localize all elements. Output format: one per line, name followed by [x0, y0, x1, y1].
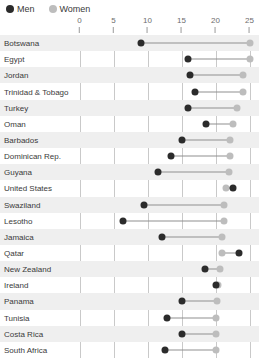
row-connector-line [188, 59, 249, 60]
chart-row[interactable]: Egypt [0, 51, 259, 67]
data-point-women[interactable] [213, 314, 220, 321]
row-connector-line [188, 107, 237, 108]
x-axis-tick: 25 [245, 17, 254, 33]
x-axis-tick-mark [113, 27, 114, 33]
legend-swatch-women-icon [49, 5, 57, 13]
data-point-women[interactable] [246, 56, 253, 63]
data-point-men[interactable] [230, 185, 237, 192]
chart-row[interactable]: New Zealand [0, 261, 259, 277]
legend-item-women[interactable]: Women [49, 5, 91, 14]
data-point-men[interactable] [212, 282, 219, 289]
data-point-men[interactable] [179, 330, 186, 337]
chart-legend: MenWomen [6, 2, 90, 16]
data-point-men[interactable] [178, 298, 185, 305]
data-point-men[interactable] [178, 136, 185, 143]
chart-row[interactable]: Botswana [0, 35, 259, 51]
data-point-women[interactable] [219, 233, 226, 240]
row-label-country: Guyana [4, 168, 32, 177]
chart-row[interactable]: Panama [0, 293, 259, 309]
row-label-country: Lesotho [4, 216, 32, 225]
data-point-women[interactable] [239, 88, 246, 95]
row-label-country: Botswana [4, 39, 39, 48]
data-point-women[interactable] [230, 120, 237, 127]
data-point-men[interactable] [202, 266, 209, 273]
data-point-men[interactable] [158, 233, 165, 240]
data-point-women[interactable] [220, 217, 227, 224]
data-point-women[interactable] [219, 250, 226, 257]
data-point-women[interactable] [226, 153, 233, 160]
data-point-men[interactable] [185, 56, 192, 63]
legend-item-men[interactable]: Men [6, 5, 35, 14]
data-point-men[interactable] [202, 120, 209, 127]
plot-area: BotswanaEgyptJordanTrinidad & TobagoTurk… [0, 35, 259, 358]
data-point-men[interactable] [141, 201, 148, 208]
row-connector-line [141, 43, 249, 44]
chart-row[interactable]: Swaziland [0, 197, 259, 213]
data-point-women[interactable] [213, 330, 220, 337]
data-point-women[interactable] [217, 266, 224, 273]
data-point-men[interactable] [185, 104, 192, 111]
x-axis-tick: 20 [211, 17, 220, 33]
row-label-country: Trinidad & Tobago [4, 87, 69, 96]
x-axis-tick-label: 0 [77, 17, 81, 25]
data-point-women[interactable] [234, 104, 241, 111]
row-connector-line [182, 333, 216, 334]
row-connector-line [182, 301, 217, 302]
row-label-country: Jordan [4, 71, 28, 80]
data-point-men[interactable] [155, 169, 162, 176]
row-connector-line [182, 139, 231, 140]
x-axis-tick-mark [215, 27, 216, 33]
chart-row[interactable]: Oman [0, 116, 259, 132]
data-point-men[interactable] [168, 153, 175, 160]
chart-row[interactable]: Trinidad & Tobago [0, 83, 259, 99]
data-point-women[interactable] [239, 72, 246, 79]
chart-row[interactable]: Jamaica [0, 229, 259, 245]
chart-rows: BotswanaEgyptJordanTrinidad & TobagoTurk… [0, 35, 259, 358]
row-label-country: Barbados [4, 135, 38, 144]
chart-row[interactable]: Tunisia [0, 310, 259, 326]
x-axis-tick-label: 15 [177, 17, 186, 25]
row-connector-line [165, 349, 216, 350]
chart-row[interactable]: United States [0, 180, 259, 196]
legend-swatch-men-icon [6, 5, 14, 13]
row-label-country: Jamaica [4, 232, 34, 241]
data-point-women[interactable] [227, 136, 234, 143]
row-label-country: New Zealand [4, 265, 51, 274]
legend-label: Men [17, 5, 35, 14]
data-point-women[interactable] [246, 40, 253, 47]
data-point-men[interactable] [192, 88, 199, 95]
chart-row[interactable]: Barbados [0, 132, 259, 148]
data-point-men[interactable] [161, 346, 168, 353]
chart-row[interactable]: Jordan [0, 67, 259, 83]
data-point-men[interactable] [186, 72, 193, 79]
chart-row[interactable]: Costa Rica [0, 326, 259, 342]
row-label-country: South Africa [4, 345, 47, 354]
row-connector-line [162, 236, 223, 237]
data-point-women[interactable] [226, 169, 233, 176]
data-point-men[interactable] [138, 40, 145, 47]
x-axis-tick-label: 25 [245, 17, 254, 25]
chart-row[interactable]: Dominican Rep. [0, 148, 259, 164]
row-connector-line [123, 220, 224, 221]
chart-row[interactable]: South Africa [0, 342, 259, 358]
row-label-country: United States [4, 184, 52, 193]
chart-row[interactable]: Ireland [0, 277, 259, 293]
data-point-women[interactable] [221, 201, 228, 208]
row-label-country: Egypt [4, 55, 24, 64]
chart-row[interactable]: Turkey [0, 100, 259, 116]
x-axis-tick-mark [147, 27, 148, 33]
data-point-women[interactable] [213, 298, 220, 305]
chart-row[interactable]: Qatar [0, 245, 259, 261]
data-point-women[interactable] [212, 346, 219, 353]
chart-row[interactable]: Lesotho [0, 213, 259, 229]
row-connector-line [195, 91, 243, 92]
row-label-country: Ireland [4, 281, 28, 290]
chart-row[interactable]: Guyana [0, 164, 259, 180]
data-point-men[interactable] [236, 250, 243, 257]
row-label-country: Oman [4, 119, 26, 128]
row-connector-line [144, 204, 224, 205]
data-point-men[interactable] [120, 217, 127, 224]
data-point-men[interactable] [163, 314, 170, 321]
x-axis-tick: 0 [77, 17, 81, 33]
legend-label: Women [60, 5, 91, 14]
